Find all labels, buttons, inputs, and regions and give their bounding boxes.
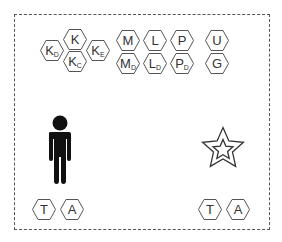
- hexagon-pd: PD: [170, 53, 194, 74]
- hexagon-k: K: [63, 29, 87, 50]
- hexagon-label: LD: [143, 53, 167, 74]
- hexagon-label: PD: [170, 53, 194, 74]
- hexagon-ld: LD: [143, 53, 167, 74]
- hexagon-label: T: [32, 199, 56, 220]
- person-icon: [43, 115, 77, 185]
- hexagon-l: L: [143, 30, 167, 51]
- hexagon-label: T: [198, 199, 222, 220]
- hexagon-a2: A: [226, 199, 250, 220]
- hexagon-label: L: [143, 30, 167, 51]
- hexagon-label: M: [116, 30, 140, 51]
- hexagon-kc: KC: [63, 51, 87, 72]
- hexagon-t2: T: [198, 199, 222, 220]
- hexagon-label: KC: [63, 51, 87, 72]
- hexagon-label: MD: [116, 53, 140, 74]
- hexagon-label: KD: [40, 40, 64, 61]
- hexagon-label: G: [205, 53, 229, 74]
- hexagon-label: P: [170, 30, 194, 51]
- hexagon-label: KE: [86, 40, 110, 61]
- hexagon-md: MD: [116, 53, 140, 74]
- hexagon-t1: T: [32, 199, 56, 220]
- hexagon-p: P: [170, 30, 194, 51]
- hexagon-u: U: [205, 30, 229, 51]
- hexagon-label: A: [226, 199, 250, 220]
- hexagon-kd: KD: [40, 40, 64, 61]
- hexagon-m: M: [116, 30, 140, 51]
- hexagon-a1: A: [60, 199, 84, 220]
- hexagon-label: A: [60, 199, 84, 220]
- hexagon-label: U: [205, 30, 229, 51]
- double-star-icon: [200, 125, 246, 171]
- hexagon-g: G: [205, 53, 229, 74]
- hexagon-label: K: [63, 29, 87, 50]
- hexagon-ke: KE: [86, 40, 110, 61]
